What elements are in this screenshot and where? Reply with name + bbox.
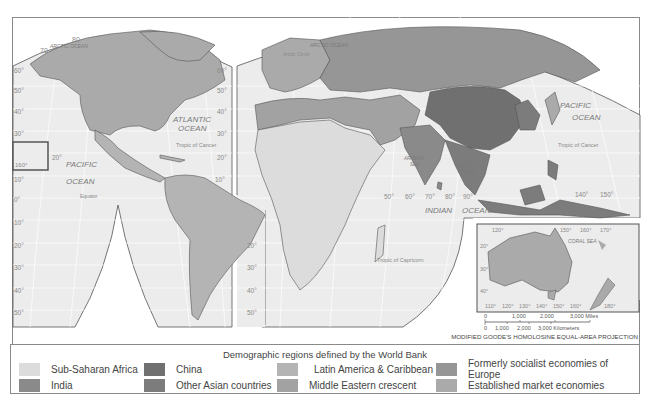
lat-label: 40° <box>14 287 24 294</box>
legend-label: Other Asian countries <box>176 380 272 391</box>
lat-label: 50° <box>14 309 24 316</box>
tropic-cancer-label: Tropic of Cancer <box>176 142 217 148</box>
legend-swatch <box>436 379 457 392</box>
inset-lon-label: 110° <box>485 303 496 309</box>
legend-label: Formerly socialist economies of Europe <box>468 358 639 380</box>
legend-item-china: China <box>144 362 202 376</box>
lat-label: 20° <box>217 154 227 161</box>
legend-swatch <box>19 379 40 392</box>
inset-lon-label: 120° <box>492 227 503 233</box>
inset-lon-label: 160° <box>570 303 581 309</box>
legend-swatch <box>277 363 298 376</box>
lon-label: 80° <box>445 193 455 200</box>
legend-item-latin-america: Latin America & Caribbean <box>277 362 433 376</box>
scale-bar: 0 1,000 2,000 3,000 Miles 0 1,000 2,000 … <box>484 313 598 331</box>
scale-km-2: 2,000 <box>517 325 531 331</box>
pacific-ocean-label-right-2: OCEAN <box>572 113 601 122</box>
lat-label: 30° <box>247 264 257 271</box>
atlantic-ocean-label-2: OCEAN <box>178 124 207 133</box>
indian-ocean-label: INDIAN <box>425 206 452 215</box>
lat-label: 30° <box>14 264 24 271</box>
arabian-sea-label-2: SEA <box>410 162 419 167</box>
tropic-cancer-label-right: Tropic of Cancer <box>558 142 599 148</box>
lon-label: 50° <box>384 193 394 200</box>
scale-km-3: 3,000 Kilometers <box>538 325 580 331</box>
world-map: 80 70 ARCTIC OCEAN ARCTIC OCEAN Arctic C… <box>0 0 648 345</box>
lat-label: 50° <box>217 87 227 94</box>
hawaii-lon-label: 160° <box>15 162 28 168</box>
pacific-ocean-label-2: OCEAN <box>66 177 95 186</box>
legend-label: India <box>51 380 73 391</box>
legend-label: Middle Eastern crescent <box>309 380 416 391</box>
legend-swatch <box>144 363 165 376</box>
lat-label: 60° <box>217 67 227 74</box>
lat-label: 0° <box>14 196 21 203</box>
atlantic-ocean-label: ATLANTIC <box>172 115 211 124</box>
lat-label: 50° <box>247 309 257 316</box>
legend-swatch <box>436 363 457 376</box>
scale-km-1: 1,000 <box>495 325 509 331</box>
inset-lon-label: 120° <box>502 303 513 309</box>
inset-lon-label: 150° <box>553 303 564 309</box>
inset-lon-label: 160° <box>580 227 591 233</box>
lat-label: 40° <box>14 108 24 115</box>
scale-miles-3: 3,000 Miles <box>570 313 598 319</box>
legend-item-middle-eastern-crescent: Middle Eastern crescent <box>277 378 416 392</box>
inset-lon-label: 140° <box>536 303 547 309</box>
lat-label: 40° <box>217 108 227 115</box>
scale-miles-2: 2,000 <box>540 313 554 319</box>
arctic-ocean-label-right: ARCTIC OCEAN <box>309 42 348 48</box>
lat-label: 60° <box>14 67 24 74</box>
lat-label: 80 <box>72 36 80 43</box>
scale-miles-0: 0 <box>484 313 487 319</box>
arabian-sea-label: ARABIAN <box>403 156 425 161</box>
legend-label: Latin America & Caribbean <box>314 364 433 375</box>
lon-label: 70° <box>425 193 435 200</box>
inset-lat-label: 40° <box>480 288 488 294</box>
legend-label: Established market economies <box>468 380 604 391</box>
legend-label: China <box>176 364 202 375</box>
legend-item-sub-saharan-africa: Sub-Saharan Africa <box>19 362 138 376</box>
legend-swatch <box>144 379 165 392</box>
legend-label: Sub-Saharan Africa <box>51 364 138 375</box>
tropic-capricorn-label: Tropic of Capricorn <box>377 257 424 263</box>
inset-lon-label: 130° <box>519 303 530 309</box>
pacific-ocean-label: PACIFIC <box>66 160 97 169</box>
inset-lon-label: 180° <box>604 303 615 309</box>
lat-label: 20° <box>14 242 24 249</box>
lat-label: 40° <box>247 287 257 294</box>
equator-label: Equator <box>80 193 98 199</box>
inset-lon-label: 170° <box>600 227 611 233</box>
lat-label: 20° <box>52 154 62 161</box>
lat-label: 70 <box>40 47 48 54</box>
legend-item-other-asian: Other Asian countries <box>144 378 272 392</box>
inset-lat-label: 30° <box>480 266 488 272</box>
coral-sea-label: CORAL SEA <box>568 238 597 244</box>
lat-label: 20° <box>247 242 257 249</box>
scale-miles-1: 1,000 <box>512 313 526 319</box>
legend-item-formerly-socialist-europe: Formerly socialist economies of Europe <box>436 362 639 376</box>
legend-swatch <box>277 379 298 392</box>
bay-of-bengal-label-2: BENGAL <box>458 169 477 174</box>
indian-ocean-label-2: OCEAN <box>462 206 491 215</box>
scale-km-0: 0 <box>484 325 487 331</box>
legend-swatch <box>19 363 40 376</box>
arctic-ocean-label: ARCTIC OCEAN <box>49 43 88 49</box>
projection-label: MODIFIED GOODE'S HOMOLOSINE EQUAL-AREA P… <box>451 333 638 340</box>
lon-label: 60° <box>405 193 415 200</box>
legend-item-india: India <box>19 378 73 392</box>
inset-lon-label: 150° <box>560 227 571 233</box>
lat-label: 10° <box>215 176 225 183</box>
lat-label: 10° <box>14 219 24 226</box>
lat-label: 10° <box>14 176 24 183</box>
australia-inset <box>477 224 639 312</box>
lat-label: 30° <box>217 130 227 137</box>
lat-label: 50° <box>14 87 24 94</box>
inset-lat-label: 20° <box>480 243 488 249</box>
bay-of-bengal-label: BAY OF <box>458 163 474 168</box>
lon-label: 90° <box>463 193 473 200</box>
lat-label: 30° <box>14 130 24 137</box>
lon-label: 150° <box>600 191 614 198</box>
lon-label: 140° <box>575 191 589 198</box>
pacific-ocean-label-right: PACIFIC <box>560 101 591 110</box>
